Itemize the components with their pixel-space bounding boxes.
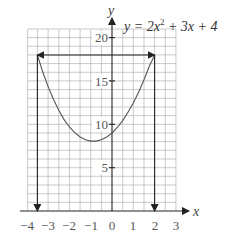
- svg-text:10: 10: [95, 117, 108, 132]
- svg-text:15: 15: [95, 74, 108, 89]
- y-tick-labels: 5 10 15 20: [92, 30, 108, 175]
- svg-text:5: 5: [102, 160, 109, 175]
- svg-text:20: 20: [95, 30, 108, 45]
- graph: −4 −3 −2 −1 0 1 2 3 5 10 15 20 x y y = 2…: [0, 0, 226, 247]
- svg-text:−2: −2: [62, 218, 76, 233]
- x-axis-label: x: [192, 204, 200, 219]
- axes: [20, 18, 189, 211]
- svg-text:3: 3: [173, 218, 180, 233]
- svg-text:−1: −1: [84, 218, 98, 233]
- svg-text:2: 2: [152, 218, 159, 233]
- y-axis-label: y: [106, 3, 115, 18]
- svg-text:1: 1: [130, 218, 137, 233]
- svg-text:0: 0: [109, 218, 116, 233]
- equation-label: y = 2x2 + 3x + 4: [122, 17, 217, 34]
- x-tick-labels: −4 −3 −2 −1 0 1 2 3: [20, 218, 179, 233]
- svg-text:−3: −3: [41, 218, 55, 233]
- svg-text:−4: −4: [20, 218, 34, 233]
